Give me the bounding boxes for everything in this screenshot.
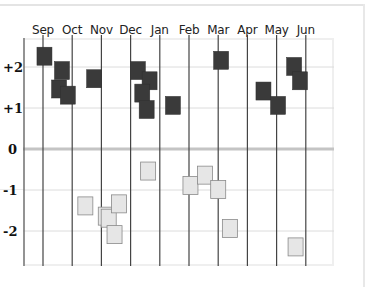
- negative-data-point: [288, 238, 303, 256]
- positive-data-point: [60, 86, 75, 104]
- positive-data-point: [135, 84, 150, 102]
- negative-data-point: [222, 219, 237, 237]
- positive-data-point: [256, 82, 271, 100]
- positive-data-point: [271, 96, 286, 114]
- positive-data-point: [214, 51, 229, 69]
- scatter-chart: [0, 0, 379, 287]
- positive-data-point: [165, 96, 180, 114]
- positive-data-point: [139, 101, 154, 119]
- negative-data-point: [141, 162, 156, 180]
- negative-data-point: [183, 176, 198, 194]
- negative-data-point: [78, 197, 93, 215]
- positive-data-point: [54, 62, 69, 80]
- negative-data-point: [107, 226, 122, 244]
- negative-data-point: [211, 181, 226, 199]
- positive-data-point: [37, 47, 52, 65]
- positive-data-point: [87, 70, 102, 88]
- positive-data-point: [292, 72, 307, 90]
- negative-data-point: [111, 195, 126, 213]
